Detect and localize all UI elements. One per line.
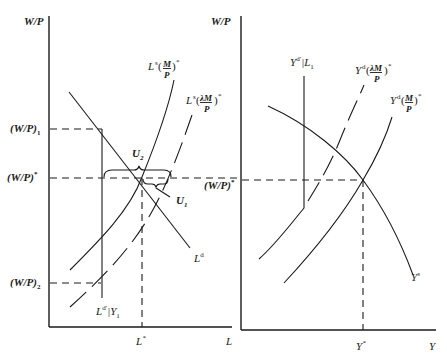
output-supply-curve <box>268 106 413 275</box>
svg-text:L: L <box>185 94 192 106</box>
unemployment-u1-brace <box>143 179 168 187</box>
left-y-axis-label: W/P <box>24 15 44 27</box>
svg-text:λM: λM <box>199 93 213 103</box>
equilibrium-wage-label-left: (W/P)* <box>7 170 38 184</box>
labor-supply-shifted-curve <box>70 115 192 307</box>
output-demand-curve <box>284 117 392 283</box>
left-x-axis-label: L <box>225 335 232 347</box>
labor-supply-label: L s ( M P ) * <box>147 58 180 80</box>
unemployment-u1-label: U1 <box>176 194 187 209</box>
wage-level-1-label: (W/P)1 <box>10 122 41 137</box>
wage-level-2-label: (W/P)2 <box>10 276 41 291</box>
svg-text:L: L <box>147 60 154 72</box>
right-y-axis-label: W/P <box>211 15 231 27</box>
svg-text:P: P <box>204 104 210 114</box>
svg-text:λM: λM <box>369 63 383 73</box>
svg-text:M: M <box>404 93 414 103</box>
svg-text:*: * <box>218 92 222 100</box>
right-x-axis-label: Y <box>429 340 437 352</box>
svg-text:*: * <box>176 58 180 66</box>
equilibrium-wage-label-right: (W/P)* <box>204 178 235 192</box>
svg-text:*: * <box>418 92 422 100</box>
equilibrium-labor-label: L* <box>135 334 146 347</box>
constrained-output-demand-curve <box>259 76 304 259</box>
svg-text:P: P <box>406 104 412 114</box>
labor-output-market-diagram: W/P L (W/P)1 (W/P)* (W/P)2 Ld′|Y1 L* Ld … <box>0 0 447 356</box>
labor-demand-label: Ld <box>193 251 204 264</box>
labor-supply-curve <box>70 80 174 270</box>
svg-text:P: P <box>164 70 170 80</box>
svg-text:*: * <box>388 62 392 70</box>
unemployment-u2-label: U2 <box>132 147 144 162</box>
constrained-labor-demand-label: Ld′|Y1 <box>95 304 120 320</box>
equilibrium-output-label: Y* <box>356 339 366 352</box>
output-supply-label: Ys <box>411 270 420 283</box>
output-demand-shifted-curve <box>308 85 364 201</box>
svg-text:(: ( <box>158 60 162 73</box>
unemployment-u2-brace <box>104 166 171 177</box>
constrained-output-demand-label: Yd′|L1 <box>290 55 314 71</box>
svg-text:P: P <box>374 74 380 84</box>
labor-supply-shifted-label: L s ( λM P ) * <box>185 92 222 114</box>
output-demand-label: Y d ( M P ) * <box>390 92 422 114</box>
output-demand-shifted-label: Y d ( λM P ) * <box>355 62 392 84</box>
right-panel-output-market: W/P Y (W/P)* Y* Ys Yd′|L1 Y d ( λM P ) *… <box>204 15 437 352</box>
svg-text:M: M <box>162 59 172 69</box>
